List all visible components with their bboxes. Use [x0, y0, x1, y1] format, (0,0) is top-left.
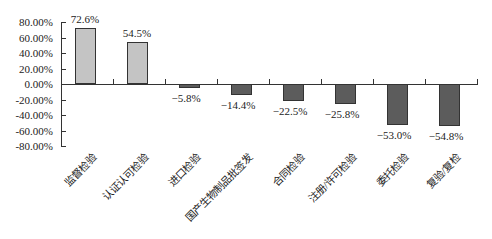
y-tick-label: -60.00% [0, 126, 53, 137]
y-tick-mark [61, 53, 66, 54]
x-tick-mark [113, 79, 114, 84]
category-label: 复验/复检 [425, 152, 463, 190]
y-tick-label: -40.00% [0, 110, 53, 121]
x-tick-mark [373, 79, 374, 84]
y-tick-mark [61, 69, 66, 70]
y-tick-label: 40.00% [0, 48, 53, 59]
value-label: −14.4% [213, 100, 263, 111]
value-label: −5.8% [161, 93, 211, 104]
y-tick-label: 60.00% [0, 33, 53, 44]
value-label: 54.5% [112, 28, 162, 39]
bar [231, 84, 252, 95]
x-tick-mark [165, 79, 166, 84]
x-tick-mark [477, 79, 478, 84]
category-label: 注册/许可检验 [306, 152, 358, 204]
y-tick-label: 80.00% [0, 17, 53, 28]
category-label: 合同检验 [271, 152, 307, 188]
category-label: 监督检验 [63, 152, 99, 188]
x-tick-mark [269, 79, 270, 84]
bar [335, 84, 356, 104]
category-label: 委托检验 [375, 152, 411, 188]
x-tick-mark [321, 79, 322, 84]
bar [439, 84, 460, 126]
y-tick-label: 20.00% [0, 64, 53, 75]
value-label: 72.6% [60, 14, 110, 25]
value-label: −54.8% [421, 131, 471, 142]
value-label: −53.0% [369, 130, 419, 141]
y-tick-mark [61, 146, 66, 147]
value-label: −25.8% [317, 109, 367, 120]
x-tick-mark [425, 79, 426, 84]
bar [127, 42, 148, 84]
bar [179, 84, 200, 88]
y-tick-mark [61, 38, 66, 39]
y-tick-label: 0.00% [0, 79, 53, 90]
y-tick-mark [61, 115, 66, 116]
bar [283, 84, 304, 101]
y-tick-mark [61, 22, 66, 23]
y-tick-mark [61, 84, 66, 85]
bar-chart: 80.00%60.00%40.00%20.00%0.00%-20.00%-40.… [0, 0, 492, 239]
x-tick-mark [217, 79, 218, 84]
y-tick-label: -20.00% [0, 95, 53, 106]
x-axis-zero-line [61, 84, 478, 85]
bar [75, 28, 96, 84]
category-label: 进口检验 [167, 152, 203, 188]
bar [387, 84, 408, 125]
category-label: 认证认可检验 [101, 152, 151, 202]
y-tick-label: -80.00% [0, 141, 53, 152]
y-tick-mark [61, 100, 66, 101]
y-tick-mark [61, 131, 66, 132]
value-label: −22.5% [265, 106, 315, 117]
